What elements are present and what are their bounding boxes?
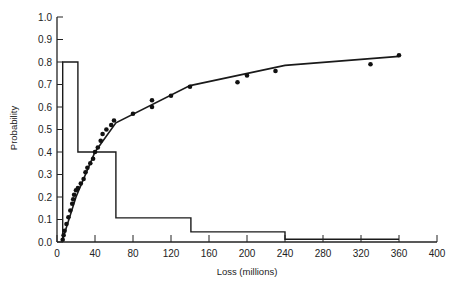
y-tick-label: 0.2: [38, 192, 52, 203]
x-tick-label: 320: [353, 248, 370, 259]
data-point: [70, 202, 75, 207]
data-point: [96, 145, 101, 150]
data-point: [71, 197, 76, 202]
y-tick-label: 0.7: [38, 79, 52, 90]
data-point: [188, 85, 193, 90]
data-point: [245, 73, 250, 78]
data-point: [83, 170, 88, 175]
y-tick-label: 0.8: [38, 57, 52, 68]
data-point: [273, 69, 278, 74]
y-tick-label: 1.0: [38, 12, 52, 23]
data-point: [131, 112, 136, 117]
y-axis-title: Probability: [8, 106, 19, 151]
data-point: [76, 186, 81, 191]
data-point: [64, 222, 69, 227]
x-tick-label: 200: [239, 248, 256, 259]
histogram-step-line: [63, 62, 399, 242]
plot-area: [60, 53, 401, 242]
data-point: [150, 98, 155, 103]
data-point: [169, 94, 174, 99]
data-point: [61, 233, 66, 238]
data-point: [81, 177, 86, 182]
data-point: [79, 181, 84, 186]
x-tick-label: 280: [315, 248, 332, 259]
data-point: [368, 62, 373, 67]
data-point: [66, 215, 71, 220]
x-tick-label: 400: [429, 248, 446, 259]
data-point: [72, 193, 77, 198]
y-axis: 0.00.10.20.30.40.50.60.70.80.91.0: [38, 12, 63, 248]
x-tick-label: 120: [163, 248, 180, 259]
data-point: [88, 161, 93, 166]
x-tick-label: 240: [277, 248, 294, 259]
x-tick-label: 360: [391, 248, 408, 259]
data-point: [93, 150, 98, 155]
y-tick-label: 0.3: [38, 169, 52, 180]
data-point: [91, 157, 96, 162]
data-point: [68, 208, 73, 213]
y-tick-label: 0.9: [38, 34, 52, 45]
data-point: [85, 166, 90, 171]
fitted-curve-line: [62, 56, 399, 242]
data-point: [98, 139, 103, 144]
data-point: [104, 127, 109, 132]
x-tick-label: 80: [127, 248, 139, 259]
y-tick-label: 0.4: [38, 147, 52, 158]
data-point: [109, 123, 114, 128]
x-tick-label: 0: [54, 248, 60, 259]
y-tick-label: 0.0: [38, 237, 52, 248]
x-axis-title: Loss (millions): [217, 266, 278, 277]
y-tick-label: 0.6: [38, 102, 52, 113]
data-point: [397, 53, 402, 58]
data-point: [150, 105, 155, 110]
x-tick-label: 160: [201, 248, 218, 259]
x-tick-label: 40: [89, 248, 101, 259]
chart-svg: 0.00.10.20.30.40.50.60.70.80.91.0 040801…: [0, 0, 458, 291]
data-point: [112, 118, 117, 123]
data-point: [62, 229, 67, 234]
y-tick-label: 0.1: [38, 214, 52, 225]
data-point: [100, 132, 105, 137]
data-point: [235, 80, 240, 85]
y-tick-label: 0.5: [38, 124, 52, 135]
